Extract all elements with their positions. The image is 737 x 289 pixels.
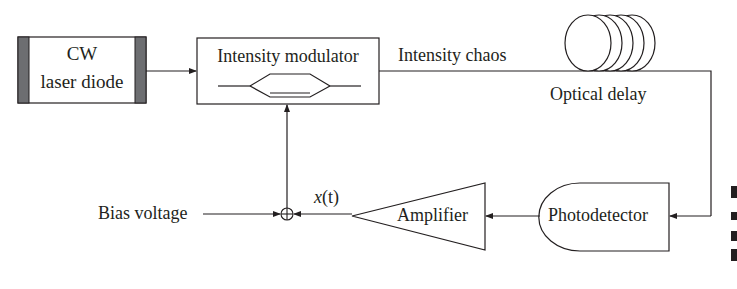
signal-xt-label: x(t) <box>314 188 339 206</box>
intensity-chaos-label: Intensity chaos <box>398 46 506 64</box>
optical-delay-label: Optical delay <box>550 85 646 103</box>
modulator-label: Intensity modulator <box>197 47 379 65</box>
clipped-caption-fragment <box>731 186 737 261</box>
laser-label-line2: laser diode <box>29 72 135 91</box>
summing-junction-icon <box>281 208 293 220</box>
signal-x: x <box>314 187 322 207</box>
fiber-coil-icon <box>565 15 655 71</box>
bias-voltage-label: Bias voltage <box>98 204 187 222</box>
photodetector-label: Photodetector <box>548 206 648 224</box>
amplifier-label: Amplifier <box>397 206 468 224</box>
signal-t: (t) <box>322 187 339 207</box>
laser-label-line1: CW <box>29 44 135 63</box>
